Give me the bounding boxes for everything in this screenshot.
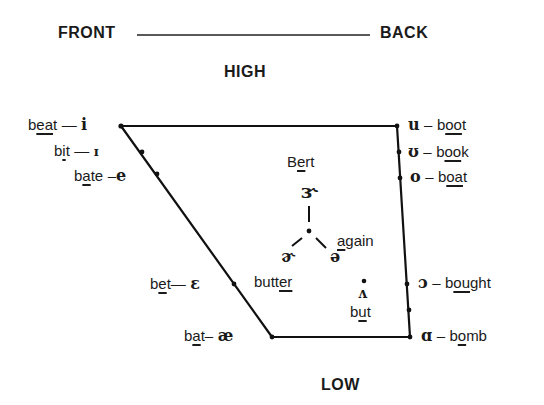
dot-ɑ	[408, 335, 413, 340]
ipa-ʌ: ʌ	[358, 285, 367, 301]
ipa-ɑ: ɑ	[421, 326, 432, 345]
ipa-u: u	[408, 115, 420, 134]
word-bert: Bert	[287, 153, 315, 171]
vowel-label-u: u – boot	[408, 115, 466, 134]
branch-left	[292, 238, 302, 246]
vowel-label-ɪ: bit — ɪ	[54, 142, 99, 160]
word-again: again	[337, 232, 374, 250]
vowel-label-ʊ: ʊ – book	[408, 142, 469, 161]
ipa-ɛ: ɛ	[190, 274, 200, 293]
vowel-label-o: o – boat	[410, 167, 467, 186]
vowel-label-æ: bat– æ	[184, 326, 233, 345]
dot-central	[307, 229, 312, 234]
ipa-æ: æ	[218, 326, 234, 345]
ipa-ɔ: ɔ	[418, 273, 428, 292]
ipa-ɚ: ɚ	[281, 247, 296, 266]
dot-æ	[270, 335, 275, 340]
dot-e	[155, 172, 160, 177]
branch-right	[316, 238, 326, 248]
dot-extra	[407, 308, 412, 313]
dot-i	[118, 123, 123, 128]
vowel-label-ɛ: bet— ɛ	[150, 274, 200, 293]
dot-ʌ	[362, 279, 367, 284]
ipa-ɝ: ɝ	[301, 180, 318, 202]
dot-u	[395, 124, 400, 129]
ipa-o: o	[410, 167, 421, 186]
word-but: but	[350, 303, 371, 321]
vowel-label-ɔ: ɔ – bought	[418, 273, 491, 292]
ipa-i: i	[81, 115, 87, 134]
dot-ɪ	[140, 150, 145, 155]
ipa-ʊ: ʊ	[408, 142, 419, 161]
vowel-label-e: bate –e	[74, 166, 126, 185]
dot-ɛ	[232, 282, 237, 287]
ipa-e: e	[116, 166, 126, 185]
ipa-ɪ: ɪ	[94, 144, 99, 159]
word-butter: butter	[254, 273, 292, 291]
dot-ʊ	[397, 150, 402, 155]
dot-o	[398, 176, 403, 181]
dot-ɔ	[405, 282, 410, 287]
vowel-label-i: beat — i	[28, 115, 87, 134]
vowel-label-ɑ: ɑ – bomb	[421, 326, 487, 345]
